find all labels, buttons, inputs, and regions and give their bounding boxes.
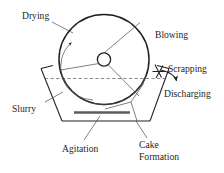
cake-wedge-stem: [131, 102, 137, 121]
label-slurry: Slurry: [12, 103, 36, 114]
label-agitation: Agitation: [62, 143, 98, 154]
drum-spoke-lower-right: [108, 65, 139, 97]
counter-clockwise-rotation-arrow: [61, 43, 93, 101]
trough-left-rim: [41, 66, 53, 69]
trough-left-wall: [41, 69, 62, 122]
leader-agitation: [84, 116, 100, 140]
leader-drying: [52, 22, 73, 33]
center-hub: [97, 53, 110, 66]
rotation-arc: [61, 43, 93, 101]
diagram-canvas: Drying Blowing Scrapping Discharging Slu…: [0, 0, 224, 173]
leader-cake-formation: [136, 121, 147, 138]
label-drying: Drying: [22, 10, 49, 21]
label-blowing: Blowing: [155, 29, 188, 40]
label-cake-line1: Cake: [139, 139, 159, 150]
drum-spoke-left: [61, 64, 100, 71]
label-discharging: Discharging: [164, 88, 211, 99]
rotating-drum: [59, 15, 149, 105]
label-scrapping: Scrapping: [168, 63, 207, 74]
label-cake-line2: Formation: [139, 151, 179, 162]
cake-wedge-upper-right: [131, 83, 144, 102]
drum-spoke-upper-right: [104, 23, 140, 54]
rotary-drum-filter-diagram: Drying Blowing Scrapping Discharging Slu…: [0, 0, 224, 173]
